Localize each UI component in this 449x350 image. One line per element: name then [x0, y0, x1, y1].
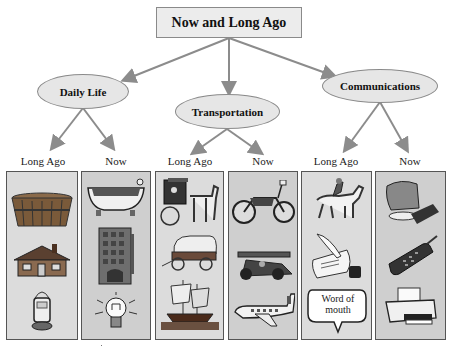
category-transportation: Transportation — [175, 94, 280, 129]
category-communications: Communications — [322, 69, 438, 103]
label-daily-life-long-ago: Long Ago — [8, 155, 78, 167]
arrow-transportation-long-ago — [193, 129, 227, 153]
log-cabin-icon — [12, 244, 72, 278]
stray-dot — [101, 345, 102, 346]
panel-communications-long-ago: Word of mouth — [301, 171, 372, 340]
horse-and-buggy-icon — [160, 176, 220, 230]
label-transportation-long-ago: Long Ago — [155, 155, 225, 167]
arrow-transportation-now — [227, 129, 261, 153]
printer-icon — [382, 286, 440, 330]
wooden-tub-icon — [10, 192, 74, 230]
apartment-building-icon — [97, 226, 135, 286]
panel-communications-now — [375, 171, 446, 340]
label-transportation-now: Now — [228, 155, 298, 167]
panel-transportation-long-ago — [155, 171, 224, 340]
sailing-ship-icon — [161, 276, 219, 332]
category-daily-life: Daily Life — [37, 74, 129, 109]
quill-and-scroll-icon — [307, 232, 367, 282]
light-bulb-icon — [91, 292, 141, 336]
panel-daily-life-long-ago — [6, 171, 78, 340]
arrow-root-to-communications — [229, 38, 334, 76]
panel-transportation-now — [228, 171, 298, 340]
motorcycle-icon — [230, 180, 296, 226]
word-of-mouth-text: Word of mouth — [316, 293, 360, 315]
arrow-daily-life-now — [83, 108, 113, 148]
arrow-communications-now — [380, 102, 407, 150]
airplane-icon — [231, 290, 295, 330]
arrow-communications-long-ago — [345, 102, 380, 150]
label-communications-now: Now — [375, 155, 445, 167]
arrow-daily-life-long-ago — [52, 108, 83, 148]
cell-phone-icon — [383, 234, 439, 278]
oil-lantern-icon — [27, 288, 57, 334]
label-daily-life-now: Now — [81, 155, 151, 167]
panel-daily-life-now — [81, 171, 151, 340]
computer-icon — [381, 178, 441, 228]
arrow-root-to-daily-life — [124, 38, 229, 80]
race-car-icon — [232, 250, 294, 284]
bathtub-icon — [84, 176, 148, 220]
root-title-box: Now and Long Ago — [156, 7, 302, 38]
horse-rider-icon — [309, 178, 365, 222]
label-communications-long-ago: Long Ago — [301, 155, 371, 167]
covered-wagon-icon — [160, 232, 220, 272]
